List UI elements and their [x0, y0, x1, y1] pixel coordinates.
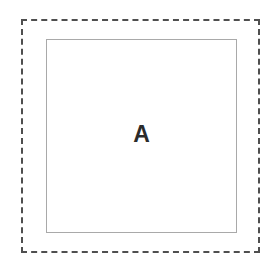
inner-solid-square-rect[interactable]: A	[46, 39, 237, 233]
diagram-canvas: A	[0, 0, 274, 263]
inner-square-label: A	[47, 40, 236, 232]
